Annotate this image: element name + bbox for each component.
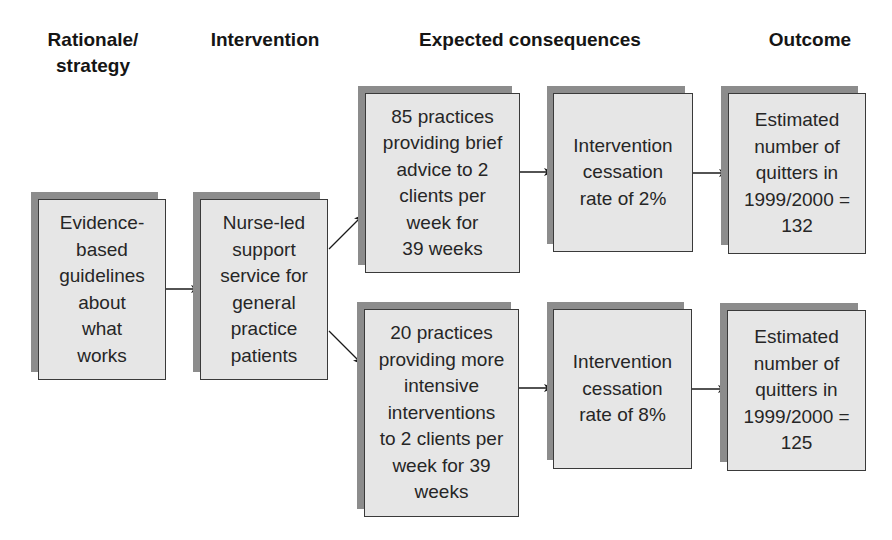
- node-body: 20 practices providing more intensive in…: [364, 309, 519, 517]
- node-text: 85 practices providing brief advice to 2…: [383, 104, 502, 263]
- node-body: Evidence- based guidelines about what wo…: [38, 199, 166, 380]
- node-text: Nurse-led support service for general pr…: [220, 210, 308, 369]
- node-text: 20 practices providing more intensive in…: [379, 320, 505, 506]
- node-body: Estimated number of quitters in 1999/200…: [727, 310, 866, 471]
- node-body: Estimated number of quitters in 1999/200…: [728, 93, 866, 254]
- node-text: Intervention cessation rate of 8%: [573, 349, 672, 429]
- node-text: Estimated number of quitters in 1999/200…: [744, 107, 850, 240]
- node-body: Nurse-led support service for general pr…: [200, 199, 328, 380]
- node-body: 85 practices providing brief advice to 2…: [365, 93, 520, 273]
- node-text: Evidence- based guidelines about what wo…: [59, 210, 145, 369]
- node-text: Estimated number of quitters in 1999/200…: [743, 324, 849, 457]
- node-body: Intervention cessation rate of 2%: [553, 93, 693, 252]
- node-body: Intervention cessation rate of 8%: [553, 309, 692, 469]
- node-text: Intervention cessation rate of 2%: [573, 133, 672, 213]
